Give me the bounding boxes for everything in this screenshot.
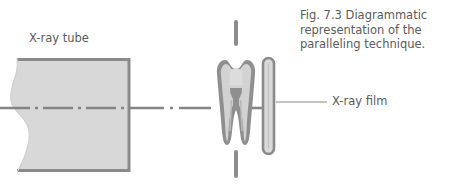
figure-container: X-ray tube X-ray film Fig. 7.3 Diagramma… xyxy=(0,0,452,190)
figure-caption: Fig. 7.3 Diagrammatic representation of … xyxy=(300,8,450,52)
label-xray-film: X-ray film xyxy=(332,94,387,108)
label-xray-tube: X-ray tube xyxy=(29,31,89,45)
tooth-pulp-chamber xyxy=(230,68,243,85)
figure-caption-line-2: representation of the xyxy=(300,23,450,38)
x-ray-tube-group xyxy=(11,58,130,172)
x-ray-tube-body xyxy=(11,58,130,172)
figure-caption-line-3: paralleling technique. xyxy=(300,37,450,52)
figure-caption-line-1: Fig. 7.3 Diagrammatic xyxy=(300,8,450,23)
tooth-group xyxy=(217,60,255,145)
x-ray-film-group xyxy=(263,58,274,154)
